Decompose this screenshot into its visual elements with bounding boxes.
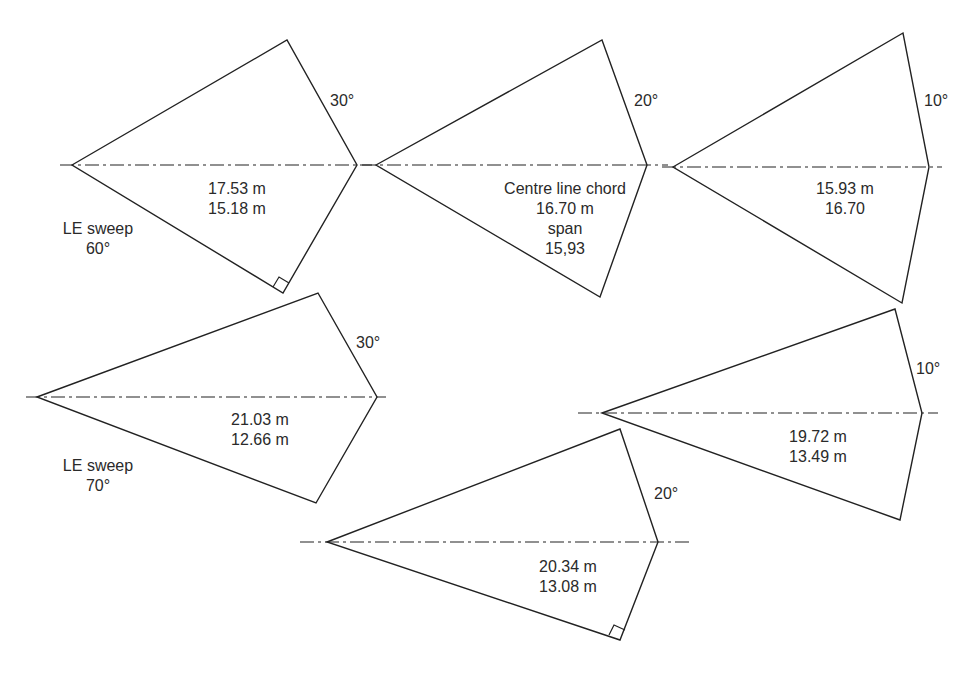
chord-label-d: 21.03 m (210, 410, 310, 429)
planform-drawing (0, 0, 978, 675)
chord-label-c: 15.93 m (795, 179, 895, 198)
chord-label-f: 20.34 m (518, 557, 618, 576)
planform-e (578, 309, 938, 520)
span-label-c: 16.70 (795, 199, 895, 218)
planform-c (662, 33, 942, 303)
le-sweep-label-a: LE sweep (48, 219, 148, 238)
te-angle-a: 30° (330, 92, 354, 110)
te-angle-b: 20° (634, 92, 658, 110)
le-sweep-value-d: 70° (48, 476, 148, 495)
te-angle-e: 10° (916, 360, 940, 378)
span-label-e: 13.49 m (768, 447, 868, 466)
le-sweep-value-a: 60° (48, 239, 148, 258)
te-angle-d: 30° (356, 334, 380, 352)
span-label-a: 15.18 m (192, 199, 282, 218)
le-sweep-label-d: LE sweep (48, 456, 148, 475)
planform-f (300, 429, 692, 640)
chord-label-e: 19.72 m (768, 427, 868, 446)
centre-line-chord-label-b: Centre line chord (480, 179, 650, 198)
chord-label-b: 16.70 m (480, 199, 650, 218)
planform-b (362, 40, 668, 297)
span-label-d: 12.66 m (210, 430, 310, 449)
span-label-f: 13.08 m (518, 577, 618, 596)
chord-label-a: 17.53 m (192, 179, 282, 198)
te-angle-c: 10° (924, 92, 948, 110)
te-angle-f: 20° (654, 485, 678, 503)
span-caption-b: span (480, 219, 650, 238)
planform-diagram: 30° 17.53 m 15.18 m LE sweep 60° 20° Cen… (0, 0, 978, 675)
span-label-b: 15,93 (480, 239, 650, 258)
